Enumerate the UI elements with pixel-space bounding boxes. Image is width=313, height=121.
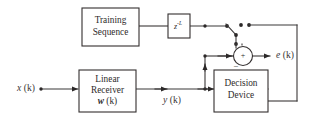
delay-exponent: -L — [177, 20, 182, 26]
linear-receiver-line1: Linear — [95, 74, 120, 84]
signal-label-input: x (k) — [16, 82, 35, 94]
signal-label-error: e (k) — [276, 49, 294, 61]
y-arg: (k) — [167, 94, 181, 106]
summer-plus-sign: + — [241, 51, 246, 60]
training-sequence-line2: Sequence — [93, 27, 129, 37]
training-sequence-line1: Training — [95, 15, 127, 25]
decision-device-line2: Device — [228, 90, 254, 100]
block-diagram-canvas: Training Sequence z-L Linear Receiver w … — [0, 0, 313, 121]
svg-text:w (k): w (k) — [98, 96, 117, 107]
linear-receiver-weight-arg: (k) — [104, 96, 117, 107]
wire-delay-to-switch — [190, 24, 229, 28]
linear-receiver-line2: Receiver — [91, 85, 125, 95]
decision-device-line1: Decision — [224, 78, 257, 88]
block-diagram: Training Sequence z-L Linear Receiver w … — [0, 0, 313, 121]
summing-junction[interactable]: + _ — [233, 47, 253, 68]
wire-receiver-to-decision — [136, 87, 214, 90]
input-arg: (k) — [21, 82, 35, 94]
signal-label-receiver-output: y (k) — [162, 94, 181, 106]
block-linear-receiver[interactable]: Linear Receiver w (k) — [79, 70, 136, 112]
block-decision-device[interactable]: Decision Device — [214, 70, 268, 112]
block-delay[interactable]: z-L — [168, 14, 190, 38]
wire-input-to-receiver — [39, 87, 78, 90]
e-arg: (k) — [280, 49, 294, 61]
block-training-sequence[interactable]: Training Sequence — [82, 8, 139, 46]
